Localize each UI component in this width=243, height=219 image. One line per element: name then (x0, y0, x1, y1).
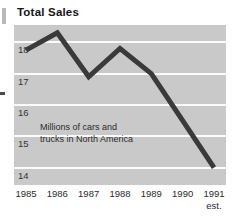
x-axis-tick-1991: 1991est. (203, 188, 224, 212)
x-axis: 1985198619871988198919901991est. (14, 188, 226, 219)
page-margin-bar-artifact (2, 8, 6, 24)
x-axis-tick-label: 1989 (141, 188, 162, 199)
x-axis-tick-1988: 1988 (109, 188, 130, 200)
x-axis-tick-label: 1991 (203, 188, 224, 199)
x-axis-tick-1990: 1990 (172, 188, 193, 200)
x-axis-tick-1987: 1987 (78, 188, 99, 200)
chart-title: Total Sales (17, 5, 79, 19)
chart-figure: Total Sales 1817161514 Millions of cars … (0, 0, 243, 219)
page-margin-dash-artifact (0, 92, 5, 95)
x-axis-tick-label: 1988 (109, 188, 130, 199)
x-axis-tick-label: 1986 (47, 188, 68, 199)
x-axis-tick-sublabel: est. (203, 200, 224, 212)
x-axis-tick-1989: 1989 (141, 188, 162, 200)
x-axis-tick-label: 1985 (15, 188, 36, 199)
x-axis-tick-label: 1990 (172, 188, 193, 199)
plot-area: 1817161514 Millions of cars and trucks i… (14, 25, 226, 185)
x-axis-tick-label: 1987 (78, 188, 99, 199)
x-axis-tick-1985: 1985 (15, 188, 36, 200)
x-axis-tick-1986: 1986 (47, 188, 68, 200)
sales-line-series (14, 25, 226, 185)
